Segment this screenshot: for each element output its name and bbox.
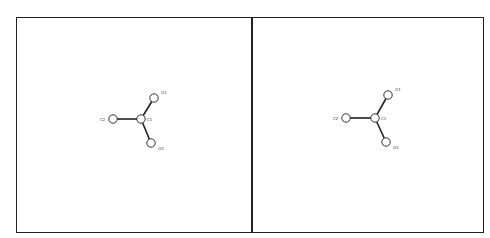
atom-label-C2: C2 xyxy=(100,117,106,122)
atom-O1[interactable] xyxy=(150,94,158,102)
atom-label-O1: O1 xyxy=(161,90,167,95)
atom-label-O2: O2 xyxy=(393,145,399,150)
atom-C1[interactable] xyxy=(137,115,145,123)
atom-O2[interactable] xyxy=(382,138,390,146)
atom-label-O2: O2 xyxy=(158,146,164,151)
atom-C2[interactable] xyxy=(109,115,117,123)
atom-label-C1: C1 xyxy=(147,117,153,122)
atom-O2[interactable] xyxy=(147,139,155,147)
atom-O1[interactable] xyxy=(384,91,392,99)
atom-C1[interactable] xyxy=(371,114,379,122)
molecule-left: C1C2O1O2 xyxy=(100,90,167,151)
atom-label-O1: O1 xyxy=(395,87,401,92)
molecule-right: C1C2O1O2 xyxy=(333,87,401,150)
atom-C2[interactable] xyxy=(342,114,350,122)
atom-label-C2: C2 xyxy=(333,116,339,121)
molecule-canvas: C1C2O1O2C1C2O1O2 xyxy=(0,0,490,238)
atom-label-C1: C1 xyxy=(381,116,387,121)
